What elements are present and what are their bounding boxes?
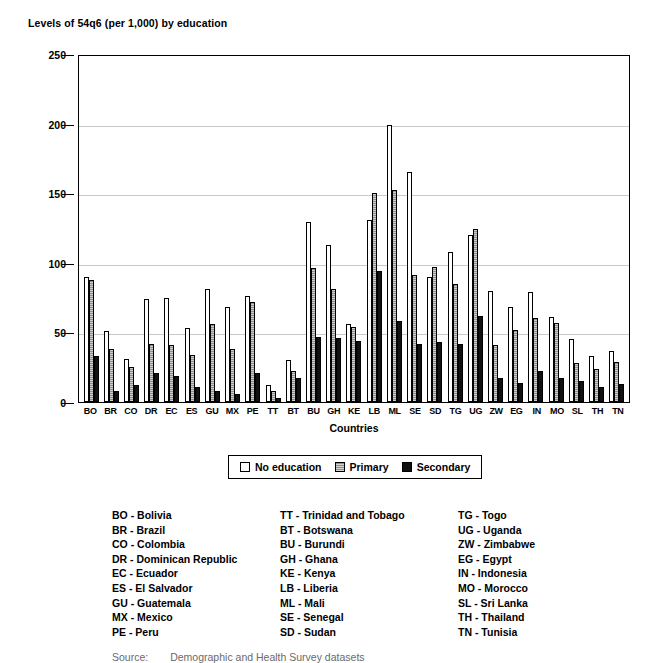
x-axis-tick-labels: BOBRCODRECESGUMXPETTBTBUGHKELBMLSESDTGUG… (78, 406, 630, 416)
source-text: Demographic and Health Survey datasets (170, 651, 364, 663)
x-axis-tick-label: TG (445, 406, 465, 416)
bar-group (566, 56, 586, 402)
y-axis-tick-mark (62, 194, 74, 195)
bar (235, 394, 240, 402)
bar-group (526, 56, 546, 402)
bar (134, 385, 139, 402)
country-key-entry: DR - Dominican Republic (112, 552, 280, 567)
y-axis-tick-mark (62, 264, 74, 265)
black-swatch (402, 462, 412, 472)
x-axis-tick-label: SL (567, 406, 587, 416)
x-axis-tick-label: MO (547, 406, 567, 416)
legend-item: Secondary (402, 461, 471, 473)
country-key-column: BO - BoliviaBR - BrazilCO - ColombiaDR -… (112, 508, 280, 639)
white-swatch (240, 462, 250, 472)
legend-item: No education (240, 461, 322, 473)
source-label: Source: (112, 651, 148, 663)
country-key-entry: SL - Sri Lanka (458, 596, 608, 611)
country-key-entry: TN - Tunisia (458, 625, 608, 640)
bar (478, 316, 483, 402)
x-axis-tick-label: SD (425, 406, 445, 416)
bar (195, 387, 200, 402)
y-axis-tick-label: 50 (22, 327, 66, 339)
plot-frame (78, 55, 630, 403)
bar-group (142, 56, 162, 402)
x-axis-tick-label: BO (80, 406, 100, 416)
country-key-entry: ML - Mali (280, 596, 458, 611)
country-key-entry: ZW - Zimbabwe (458, 537, 608, 552)
x-axis-tick-label: BR (100, 406, 120, 416)
country-key-entry: TT - Trinidad and Tobago (280, 508, 458, 523)
x-axis-tick-label: TT (263, 406, 283, 416)
bar (599, 387, 604, 402)
y-axis-tick-label: 250 (22, 49, 66, 61)
bar-group (303, 56, 323, 402)
bar-group (485, 56, 505, 402)
y-axis-tick-label: 0 (22, 397, 66, 409)
bar (336, 338, 341, 402)
country-key-entry: UG - Uganda (458, 523, 608, 538)
bar-groups (79, 56, 629, 402)
x-axis-tick-label: LB (364, 406, 384, 416)
chart-legend: No educationPrimarySecondary (228, 455, 482, 479)
bar-group (586, 56, 606, 402)
x-axis-title: Countries (78, 422, 630, 434)
country-key-entry: BT - Botswana (280, 523, 458, 538)
y-axis-tick-mark (62, 55, 74, 56)
x-axis-tick-label: KE (344, 406, 364, 416)
country-key-entry: SE - Senegal (280, 610, 458, 625)
bar (417, 344, 422, 402)
y-axis-tick-mark (62, 403, 74, 404)
bar (114, 391, 119, 402)
country-key-entry: GH - Ghana (280, 552, 458, 567)
bar (458, 344, 463, 402)
bar (397, 321, 402, 402)
bar (538, 371, 543, 402)
bar-group (182, 56, 202, 402)
country-key-entry: MO - Morocco (458, 581, 608, 596)
country-key-entry: BO - Bolivia (112, 508, 280, 523)
y-axis-tick-mark (62, 125, 74, 126)
x-axis-tick-label: PE (242, 406, 262, 416)
bar (276, 398, 281, 402)
bar-group (202, 56, 222, 402)
x-axis-tick-label: SE (405, 406, 425, 416)
bar-group (324, 56, 344, 402)
bar-group (121, 56, 141, 402)
x-axis-tick-label: MX (222, 406, 242, 416)
bar-group (465, 56, 485, 402)
x-axis-tick-label: ZW (486, 406, 506, 416)
x-axis-tick-label: IN (527, 406, 547, 416)
bar-group (384, 56, 404, 402)
bar (255, 373, 260, 402)
bar (154, 373, 159, 402)
bar-group (506, 56, 526, 402)
x-axis-tick-label: UG (466, 406, 486, 416)
y-axis-tick-label: 200 (22, 119, 66, 131)
bar-group (162, 56, 182, 402)
legend-item-label: No education (255, 461, 322, 473)
y-axis-tick-mark (62, 333, 74, 334)
bar-group (243, 56, 263, 402)
legend-item: Primary (335, 461, 389, 473)
country-key-entry: KE - Kenya (280, 566, 458, 581)
bar (316, 337, 321, 402)
country-key-entry: ES - El Salvador (112, 581, 280, 596)
bar (437, 342, 442, 402)
bar-group (445, 56, 465, 402)
bar (377, 271, 382, 402)
country-key-entry: PE - Peru (112, 625, 280, 640)
x-axis-tick-label: ML (384, 406, 404, 416)
bar-group (263, 56, 283, 402)
legend-item-label: Secondary (417, 461, 471, 473)
country-key-entry: EG - Egypt (458, 552, 608, 567)
country-key-entry: TH - Thailand (458, 610, 608, 625)
bar-group (405, 56, 425, 402)
x-axis-tick-label: ES (181, 406, 201, 416)
y-axis-tick-label: 150 (22, 188, 66, 200)
x-axis-tick-label: GU (202, 406, 222, 416)
country-key-entry: IN - Indonesia (458, 566, 608, 581)
bar (356, 341, 361, 402)
bar (215, 391, 220, 402)
x-axis-tick-label: EC (161, 406, 181, 416)
